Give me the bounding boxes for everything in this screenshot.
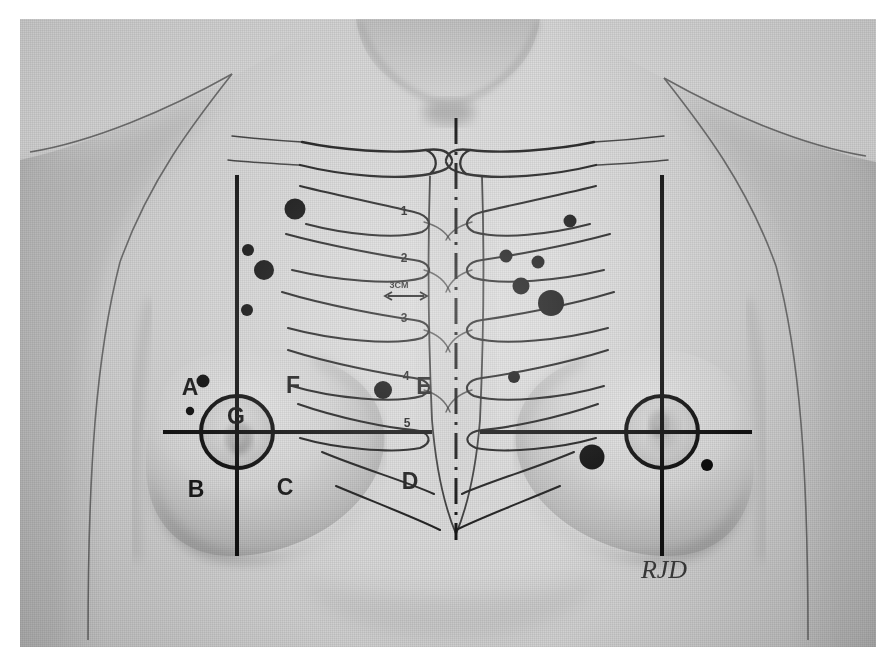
lesion-dot bbox=[532, 256, 545, 269]
rib-number-labels: 12345 bbox=[401, 204, 411, 430]
artist-signature: RJD bbox=[640, 555, 687, 584]
rib-label-1: 1 bbox=[401, 204, 408, 218]
lesion-dot bbox=[564, 215, 577, 228]
quadrant-label-d: D bbox=[402, 468, 419, 494]
clavicles bbox=[228, 136, 668, 177]
lesion-dot bbox=[197, 375, 210, 388]
left-ribs bbox=[282, 186, 450, 530]
quadrant-label-b: B bbox=[188, 476, 205, 502]
lesion-dot bbox=[285, 199, 306, 220]
rib-label-5: 5 bbox=[404, 416, 411, 430]
quadrant-label-c: C bbox=[277, 474, 294, 500]
lesion-dot bbox=[701, 459, 713, 471]
lesion-dot bbox=[508, 371, 520, 383]
lesion-dot bbox=[513, 278, 530, 295]
lesion-dot bbox=[241, 304, 253, 316]
quadrant-label-a: A bbox=[182, 374, 199, 400]
lesion-dot bbox=[580, 445, 605, 470]
body-contour-lines bbox=[30, 74, 866, 640]
quadrant-label-e: E bbox=[416, 373, 431, 399]
lesion-dot bbox=[254, 260, 274, 280]
ink-overlay-layer: ABCDEFG 12345 3CM RJD bbox=[20, 19, 876, 647]
rib-label-4: 4 bbox=[403, 369, 410, 383]
quadrant-label-f: F bbox=[286, 372, 300, 398]
lesion-dot bbox=[538, 290, 564, 316]
figure-root: ABCDEFG 12345 3CM RJD bbox=[0, 0, 891, 666]
rib-label-2: 2 bbox=[401, 251, 408, 265]
measurement-label: 3CM bbox=[389, 280, 408, 290]
rib-label-3: 3 bbox=[401, 311, 408, 325]
lesion-dot bbox=[186, 407, 194, 415]
measurement-arrow bbox=[385, 292, 427, 300]
lesion-dot bbox=[500, 250, 513, 263]
quadrant-label-g: G bbox=[227, 403, 245, 429]
lesion-dot bbox=[242, 244, 254, 256]
right-ribs bbox=[446, 186, 614, 530]
photographic-plate: ABCDEFG 12345 3CM RJD bbox=[20, 19, 876, 647]
lesion-dot bbox=[374, 381, 392, 399]
quadrant-labels: ABCDEFG bbox=[182, 372, 432, 502]
